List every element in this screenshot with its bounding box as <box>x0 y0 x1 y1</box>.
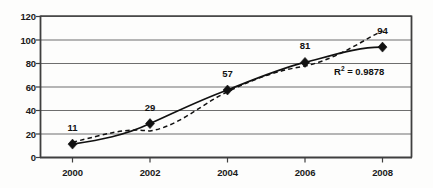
r-squared-prefix: R <box>334 66 341 77</box>
r-squared-value: = 0.9878 <box>345 66 385 77</box>
x-tick-label-2006: 2006 <box>295 168 316 178</box>
x-tick-label-2002: 2002 <box>140 168 161 178</box>
x-axis-tick-labels: 2000 2002 2004 2006 2008 <box>0 0 433 188</box>
x-tick-label-2000: 2000 <box>62 168 83 178</box>
r-squared-annotation: R2 = 0.9878 <box>334 67 384 77</box>
point-value-label-2006: 81 <box>300 41 311 51</box>
point-value-label-2004: 57 <box>222 69 233 79</box>
point-value-label-2008: 94 <box>377 26 388 36</box>
point-value-label-2000: 11 <box>67 123 77 133</box>
x-tick-label-2004: 2004 <box>217 168 238 178</box>
line-chart: 120 100 80 60 40 20 0 2000 2002 2004 200… <box>0 0 433 188</box>
point-value-label-2002: 29 <box>145 103 156 113</box>
x-tick-label-2008: 2008 <box>372 168 393 178</box>
